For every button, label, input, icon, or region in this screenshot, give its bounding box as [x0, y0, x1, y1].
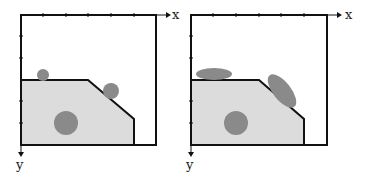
left-blob-small [37, 69, 49, 81]
right-x-arrow-icon [337, 12, 342, 18]
right-y-label: y [185, 157, 194, 172]
right-x-label: x [345, 7, 353, 22]
right-blob-large [224, 111, 248, 135]
diagram-canvas: x y x y [0, 0, 366, 179]
left-x-label: x [172, 7, 180, 22]
left-panel: x y [15, 7, 180, 172]
left-blob-medium [103, 83, 119, 99]
right-blob-flat [196, 68, 232, 80]
left-blob-large [54, 111, 78, 135]
left-y-label: y [15, 157, 24, 172]
left-x-arrow-icon [166, 12, 171, 18]
right-panel: x y [185, 7, 353, 172]
